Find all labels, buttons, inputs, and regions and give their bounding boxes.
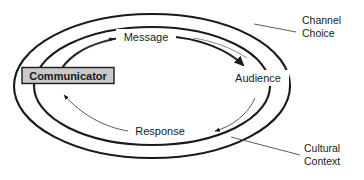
cultural-context-leader-line xyxy=(231,137,300,155)
message-label: Message xyxy=(124,31,169,43)
cultural-context-label-line1: Cultural xyxy=(304,142,340,154)
communication-diagram: Communicator Message Audience Response C… xyxy=(0,0,364,180)
response-label: Response xyxy=(135,125,185,137)
audience-label: Audience xyxy=(235,72,281,84)
diagram-canvas: Communicator Message Audience Response C… xyxy=(0,0,364,180)
communicator-label: Communicator xyxy=(29,70,107,82)
channel-choice-label-line1: Channel xyxy=(302,14,341,26)
channel-choice-label-line2: Choice xyxy=(302,27,335,39)
message-arc-thin-right xyxy=(193,38,247,58)
cultural-context-label-line2: Context xyxy=(304,155,340,167)
response-arc-left xyxy=(64,95,128,131)
response-arc-right xyxy=(215,98,255,131)
channel-choice-leader-line xyxy=(254,24,296,32)
